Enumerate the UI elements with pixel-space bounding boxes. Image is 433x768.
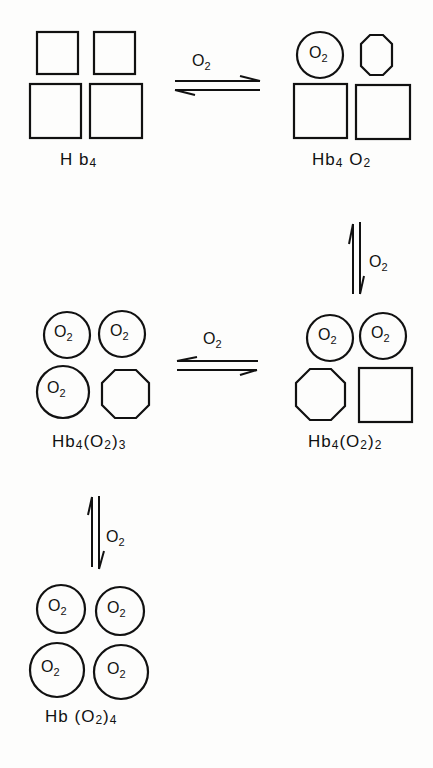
o2-label: O2 [309, 44, 328, 62]
o2-label: O2 [107, 599, 126, 617]
arrow-3-o2-label: O2 [203, 330, 222, 348]
o2-label: O2 [48, 597, 67, 615]
hb4o2-2-tetramer [296, 313, 412, 422]
subunit-octagon [102, 370, 149, 418]
species-label-hb4o2-3: Hb4(O2)3 [52, 432, 126, 452]
subunit-square [356, 85, 410, 139]
o2-label: O2 [371, 324, 390, 342]
arrow-2-o2-label: O2 [369, 253, 388, 271]
subunit-square [37, 32, 78, 74]
species-label-hb4o2: Hb4 O2 [312, 150, 371, 170]
o2-label: O2 [107, 660, 126, 678]
species-label-hb4o2-2: Hb4(O2)2 [308, 432, 382, 452]
species-label-hb4: H b4 [60, 150, 97, 170]
o2-label: O2 [41, 658, 60, 676]
subunit-square [359, 368, 412, 422]
subunit-octagon [296, 369, 345, 420]
subunit-octagon [361, 35, 392, 75]
equilibrium-arrow-4 [88, 496, 104, 569]
hb4-tetramer [30, 32, 142, 138]
o2-label: O2 [47, 379, 66, 397]
subunit-square [294, 84, 347, 138]
o2-label: O2 [318, 326, 337, 344]
species-label-hbo2-4: Hb (O2)4 [45, 707, 117, 727]
equilibrium-arrow-3 [177, 357, 258, 375]
o2-label: O2 [54, 323, 73, 341]
arrow-4-o2-label: O2 [106, 528, 125, 546]
o2-label: O2 [110, 322, 129, 340]
subunit-square [90, 84, 142, 138]
arrow-1-o2-label: O2 [192, 52, 211, 70]
equilibrium-arrow-2 [349, 222, 364, 294]
subunit-square [30, 84, 81, 138]
equilibrium-arrow-1 [175, 76, 260, 95]
subunit-square [94, 32, 135, 74]
